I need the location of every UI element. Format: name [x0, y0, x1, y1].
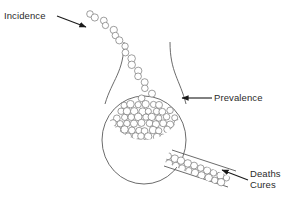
label-prevalence: Prevalence [214, 92, 263, 103]
label-deaths: Deaths [250, 168, 281, 179]
label-cures: Cures [250, 179, 276, 190]
neck-wall-left [105, 42, 124, 104]
label-incidence: Incidence [4, 10, 46, 21]
diagram-canvas: Incidence Prevalence Deaths Cures [0, 0, 292, 202]
neck-wall-right [170, 42, 186, 104]
incidence-circles [87, 11, 156, 97]
arrow-incidence [57, 16, 86, 27]
